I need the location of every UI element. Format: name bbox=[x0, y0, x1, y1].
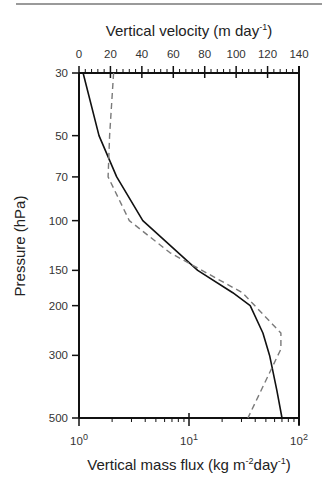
pressure-tick-label: 200 bbox=[49, 300, 68, 312]
velocity-series-line bbox=[108, 73, 281, 418]
velocity-tick-label: 60 bbox=[167, 48, 180, 60]
velocity-tick-label: 120 bbox=[258, 48, 277, 60]
velocity-axis-title: Vertical velocity (m day-1) bbox=[106, 22, 272, 39]
pressure-tick-label: 100 bbox=[49, 215, 68, 227]
mass-flux-tick-label: 102 bbox=[290, 432, 308, 447]
pressure-tick-label: 50 bbox=[55, 130, 68, 142]
mass-flux-series-line bbox=[83, 73, 282, 418]
pressure-axis: 305070100150200300500 bbox=[49, 67, 79, 424]
plot-frame bbox=[79, 66, 299, 425]
velocity-tick-label: 80 bbox=[198, 48, 211, 60]
pressure-axis-title: Pressure (hPa) bbox=[11, 196, 28, 297]
velocity-tick-label: 0 bbox=[76, 48, 82, 60]
mass-flux-tick-label: 101 bbox=[180, 432, 198, 447]
pressure-tick-label: 500 bbox=[49, 412, 68, 424]
pressure-tick-label: 70 bbox=[55, 171, 68, 183]
pressure-tick-label: 30 bbox=[55, 67, 68, 79]
velocity-tick-label: 40 bbox=[135, 48, 148, 60]
velocity-tick-label: 140 bbox=[289, 48, 308, 60]
pressure-tick-label: 150 bbox=[49, 264, 68, 276]
velocity-tick-label: 20 bbox=[104, 48, 117, 60]
mass-flux-tick-label: 100 bbox=[70, 432, 88, 447]
series-group bbox=[83, 73, 282, 418]
velocity-tick-label: 100 bbox=[227, 48, 246, 60]
profile-chart: 305070100150200300500 020406080100120140… bbox=[0, 0, 322, 489]
mass-flux-axis-title: Vertical mass flux (kg m-2day-1) bbox=[87, 456, 291, 473]
pressure-tick-label: 300 bbox=[49, 349, 68, 361]
